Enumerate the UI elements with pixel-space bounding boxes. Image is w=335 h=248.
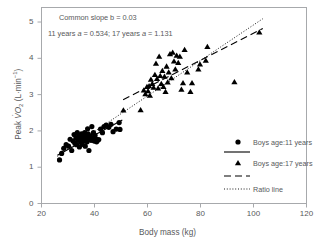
x-tick-label: 80 bbox=[189, 209, 213, 218]
data-point-circle bbox=[117, 127, 122, 132]
data-point-triangle bbox=[178, 87, 184, 92]
data-point-triangle bbox=[138, 107, 144, 112]
annot-mid: = 0.534; 17 years bbox=[81, 29, 141, 38]
data-point-triangle bbox=[168, 75, 174, 80]
data-point-triangle bbox=[156, 54, 162, 59]
data-point-triangle bbox=[184, 69, 190, 74]
x-axis-title: Body mass (kg) bbox=[0, 228, 335, 237]
y-tick-label: 5 bbox=[20, 17, 34, 26]
data-point-triangle bbox=[163, 63, 169, 68]
data-point-circle bbox=[57, 157, 62, 162]
chart-figure: Common slope b = 0.03 11 years a = 0.534… bbox=[0, 0, 335, 248]
x-tick-label: 20 bbox=[30, 209, 54, 218]
y-tick-label: 4 bbox=[20, 53, 34, 62]
annot-pre: 11 years bbox=[48, 29, 77, 38]
ytitle-close: ) bbox=[14, 69, 23, 72]
ytitle-o: O bbox=[14, 107, 23, 113]
series-points-11-years bbox=[57, 120, 123, 163]
annotation-intercepts: 11 years a = 0.534; 17 years a = 1.131 bbox=[48, 29, 173, 38]
legend-label-17-years: Boys age:17 years bbox=[253, 159, 313, 168]
legend-triangle-marker bbox=[235, 160, 241, 165]
ytitle-v: V̇ bbox=[14, 113, 23, 118]
data-point-triangle bbox=[182, 47, 188, 52]
data-point-triangle bbox=[153, 60, 159, 65]
y-tick-label: 3 bbox=[20, 90, 34, 99]
data-point-circle bbox=[59, 151, 64, 156]
data-point-triangle bbox=[204, 44, 210, 49]
y-tick-label: 1 bbox=[20, 162, 34, 171]
legend-glyphs bbox=[224, 139, 250, 189]
legend-label-ratio-line: Ratio line bbox=[253, 185, 283, 194]
legend-label-11-years: Boys age:11 years bbox=[253, 138, 312, 147]
x-tick-label: 100 bbox=[242, 209, 266, 218]
annot-post: = 1.131 bbox=[146, 29, 173, 38]
y-tick-label: 2 bbox=[20, 126, 34, 135]
data-point-triangle bbox=[195, 66, 201, 71]
annotation-common-slope: Common slope b = 0.03 bbox=[59, 13, 137, 22]
data-point-circle bbox=[108, 122, 113, 127]
data-point-triangle bbox=[120, 107, 126, 112]
ytitle-sup: −1 bbox=[12, 71, 18, 78]
data-point-triangle bbox=[171, 58, 177, 63]
data-point-triangle bbox=[231, 79, 237, 84]
x-tick-label: 120 bbox=[295, 209, 319, 218]
data-point-triangle bbox=[187, 89, 193, 94]
data-point-triangle bbox=[148, 76, 154, 81]
data-point-circle bbox=[117, 120, 122, 125]
data-point-circle bbox=[100, 130, 105, 135]
data-point-triangle bbox=[162, 89, 168, 94]
legend-circle-marker bbox=[235, 139, 240, 144]
y-tick-label: 0 bbox=[20, 199, 34, 208]
ytitle-sub: 2 bbox=[18, 104, 24, 107]
data-point-triangle bbox=[166, 69, 172, 74]
x-tick-label: 60 bbox=[136, 209, 160, 218]
data-point-circle bbox=[69, 148, 74, 153]
data-point-circle bbox=[86, 148, 91, 153]
data-point-circle bbox=[96, 137, 101, 142]
y-axis-ticks bbox=[38, 22, 42, 203]
x-axis-ticks bbox=[42, 204, 307, 208]
x-tick-label: 40 bbox=[83, 209, 107, 218]
data-point-triangle bbox=[180, 80, 186, 85]
data-point-circle bbox=[66, 144, 71, 149]
data-point-triangle bbox=[256, 29, 262, 34]
data-point-triangle bbox=[172, 66, 178, 71]
data-point-triangle bbox=[189, 80, 195, 85]
data-point-circle bbox=[89, 124, 94, 129]
